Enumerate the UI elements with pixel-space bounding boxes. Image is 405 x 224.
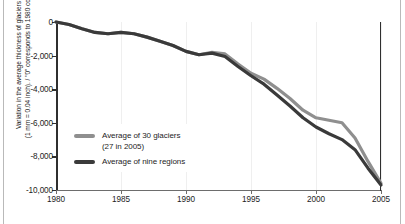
legend-label-nine-regions: Average of nine regions <box>102 156 185 167</box>
legend-swatch-30-glaciers <box>74 134 95 138</box>
legend-label-30-glaciers: Average of 30 glaciers (27 in 2005) <box>102 130 180 152</box>
legend-swatch-nine-regions <box>74 160 95 164</box>
glacier-chart-figure: Variation in the average thickness of gl… <box>0 0 405 224</box>
legend-item-30-glaciers: Average of 30 glaciers (27 in 2005) <box>74 130 180 152</box>
legend: Average of 30 glaciers (27 in 2005) Aver… <box>64 124 206 172</box>
series-plot <box>0 0 405 224</box>
legend-item-nine-regions: Average of nine regions <box>74 156 185 167</box>
